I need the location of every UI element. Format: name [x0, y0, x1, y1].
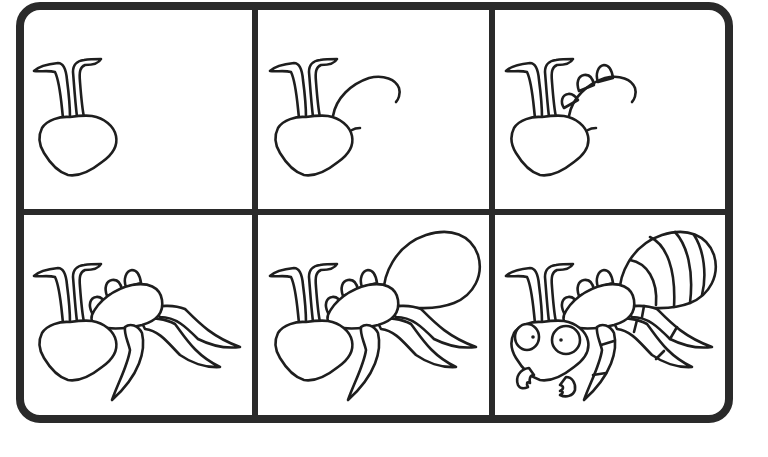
ant-step-6-illustration: [495, 215, 725, 419]
ant-step-5-illustration: [258, 215, 489, 419]
ant-step-4-illustration: [24, 215, 252, 419]
step-panel-5: Add oval abdomen: [258, 215, 489, 419]
step-panel-3: Add three bumps on thorax: [495, 10, 725, 209]
eye-right-icon: [552, 326, 580, 354]
eye-left-icon: [515, 324, 539, 350]
ant-step-1-illustration: [24, 10, 252, 209]
step-panel-1: Head with antennae: [24, 10, 252, 209]
step-panel-4: Add six legs: [24, 215, 252, 419]
ant-step-3-illustration: [495, 10, 725, 209]
page-title: How to draw an ant: [0, 0, 1, 1]
step-panel-6: Add eyes, mandibles, abdomen stripes and…: [495, 215, 725, 419]
ant-step-2-illustration: [258, 10, 489, 209]
step-panel-2: Add thorax outline: [258, 10, 489, 209]
